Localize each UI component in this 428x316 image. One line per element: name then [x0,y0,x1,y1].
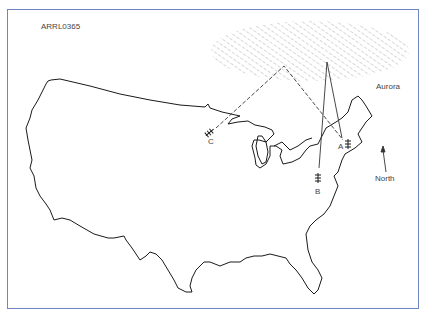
usa-outline [26,79,372,294]
yagi-antenna-icon-b [315,173,321,183]
yagi-antenna-icon-a [345,139,351,149]
arrow-up-icon [381,146,386,172]
figure-id-label: ARRL0365 [41,23,80,31]
north-label: North [375,175,395,183]
aurora-label: Aurora [376,83,400,91]
station-b-label: B [315,188,320,196]
aurora-region [205,18,415,88]
station-a-label: A [338,143,343,151]
aurora-map-diagram [0,0,428,316]
station-c-label: C [208,138,214,146]
